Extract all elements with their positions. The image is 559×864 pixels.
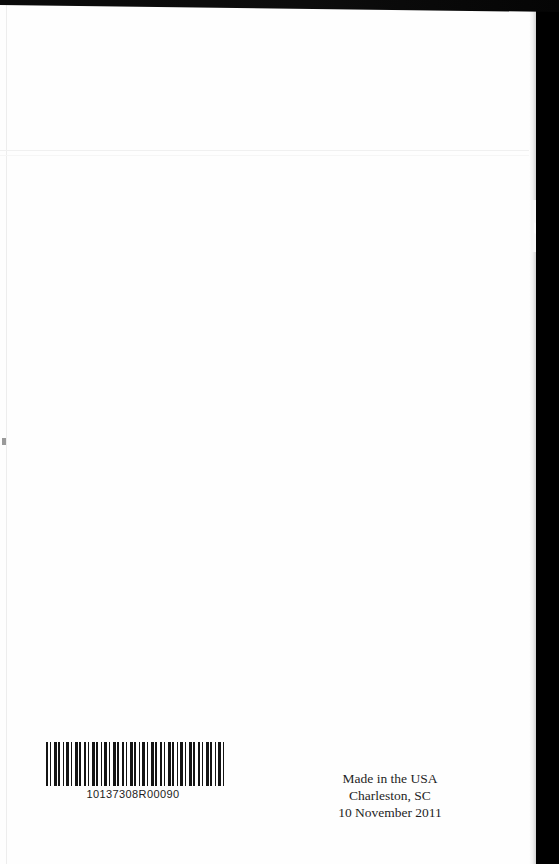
barcode-icon bbox=[46, 742, 224, 786]
imprint-block: Made in the USA Charleston, SC 10 Novemb… bbox=[318, 770, 462, 821]
left-edge-speck bbox=[2, 438, 6, 445]
horizontal-fold-line-secondary bbox=[0, 155, 536, 156]
scanner-background-right bbox=[536, 0, 559, 864]
imprint-line-date: 10 November 2011 bbox=[318, 804, 462, 821]
imprint-line-location: Charleston, SC bbox=[318, 787, 462, 804]
imprint-line-made-in: Made in the USA bbox=[318, 770, 462, 787]
left-edge-crease bbox=[6, 0, 7, 864]
horizontal-fold-line bbox=[0, 150, 536, 151]
scanned-page: 10137308R00090 Made in the USA Charlesto… bbox=[0, 0, 559, 864]
barcode-number: 10137308R00090 bbox=[40, 788, 226, 800]
barcode-block: 10137308R00090 bbox=[40, 742, 226, 800]
paper-sheet bbox=[0, 0, 538, 864]
